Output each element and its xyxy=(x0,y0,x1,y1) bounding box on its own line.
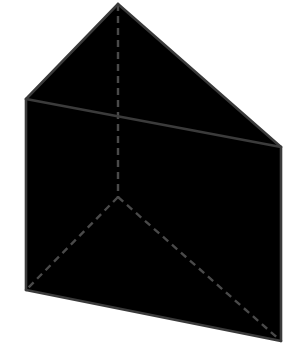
figure-canvas xyxy=(0,0,299,359)
prism-faces xyxy=(26,4,281,341)
triangular-prism-drawing xyxy=(0,0,299,359)
